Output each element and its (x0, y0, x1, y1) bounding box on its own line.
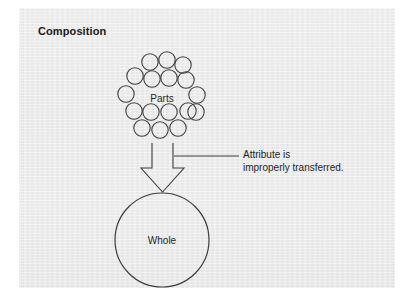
part-circle (144, 71, 160, 87)
part-circle (142, 54, 158, 70)
part-circle (159, 52, 175, 68)
part-circle (127, 68, 143, 84)
composition-arrow (141, 143, 184, 192)
annotation-line-1: Attribute is (243, 148, 344, 161)
part-circle (178, 72, 194, 88)
part-circle (175, 57, 191, 73)
diagram-screenshot: Composition Parts Whole Attribute is imp… (0, 0, 409, 306)
part-circle (170, 120, 186, 136)
part-circle (161, 104, 177, 120)
part-circle (143, 104, 159, 120)
part-circle (134, 120, 150, 136)
part-circle (118, 86, 134, 102)
parts-label: Parts (150, 93, 173, 104)
whole-label: Whole (148, 235, 176, 246)
diagram-canvas (0, 0, 409, 306)
composition-arrow-outline (141, 143, 184, 192)
part-circle (152, 122, 168, 138)
annotation-text: Attribute is improperly transferred. (243, 148, 344, 174)
part-circle (126, 103, 142, 119)
part-circle (189, 87, 205, 103)
annotation-line-2: improperly transferred. (243, 161, 344, 174)
part-circle (161, 70, 177, 86)
